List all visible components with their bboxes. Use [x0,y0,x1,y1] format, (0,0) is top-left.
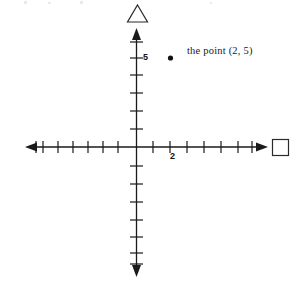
square-marker-icon [273,140,289,156]
y-axis-group [130,28,143,277]
scan-artifact-speck [210,2,212,4]
scan-artifact-speck [48,2,51,4]
coordinate-plane-figure: 5 2 the point (2, 5) [0,0,292,283]
x-axis-left-arrow-icon [25,143,37,152]
y-axis-down-arrow-icon [132,265,141,277]
scan-artifact-speck [24,1,27,4]
x-axis-group [25,141,268,153]
x-axis-right-arrow-icon [256,143,268,152]
plotted-point-marker [168,55,173,60]
y-axis-tick-label-5: 5 [143,53,148,62]
y-axis-up-arrow-icon [132,28,141,40]
x-axis-tick-label-2: 2 [170,152,175,161]
coordinate-axes-graphic [0,0,292,283]
point-caption-label: the point (2, 5) [187,45,253,56]
scan-artifact-speck [80,1,83,4]
triangle-marker-icon [128,5,148,22]
